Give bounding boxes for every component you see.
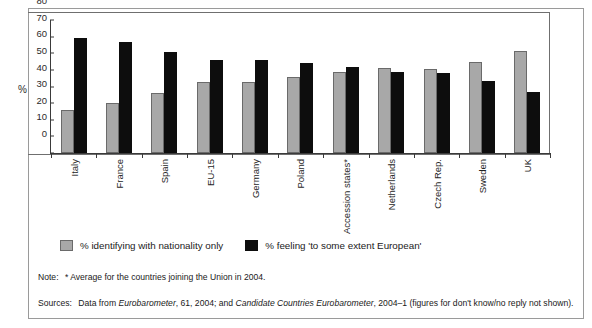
bar-european — [119, 42, 132, 153]
y-tick-40: 40 — [36, 61, 47, 72]
x-category: France — [96, 157, 141, 219]
x-category-label: EU-15 — [204, 159, 215, 186]
bar-nationality — [378, 68, 391, 153]
bar-group — [51, 20, 96, 153]
bar-european — [210, 60, 223, 153]
y-tick-30: 30 — [36, 78, 47, 89]
x-category-label: Germany — [250, 159, 261, 198]
bar-group — [232, 20, 277, 153]
bar-group — [505, 20, 550, 153]
legend-swatch-grey — [60, 240, 73, 251]
x-tick-mark — [550, 153, 551, 158]
bar-group — [187, 20, 232, 153]
legend-item-european: % feeling 'to some extent European' — [245, 240, 421, 251]
x-category-label: Accession states* — [340, 159, 351, 234]
bar-european — [346, 67, 359, 153]
bar-european — [482, 81, 495, 153]
bar-group — [459, 20, 504, 153]
bar-european — [527, 92, 540, 153]
y-tick-50: 50 — [36, 44, 47, 55]
x-axis-category-labels: ItalyFranceSpainEU-15GermanyPolandAccess… — [51, 157, 550, 219]
note-label: Note: — [38, 272, 59, 282]
sources-mid: , 61, 2004; and — [176, 298, 233, 308]
bar-european — [74, 38, 87, 153]
bar-nationality — [333, 72, 346, 153]
legend-item-nationality: % identifying with nationality only — [60, 240, 223, 251]
y-axis-ticks: 01020304050607080 — [0, 0, 47, 154]
x-category-label: Sweden — [476, 159, 487, 193]
x-category: Germany — [232, 157, 277, 219]
bar-european — [437, 73, 450, 153]
x-category-label: Spain — [159, 159, 170, 183]
bar-nationality — [514, 51, 527, 153]
chart-page: % 01020304050607080 ItalyFranceSpainEU-1… — [0, 0, 592, 328]
bar-european — [391, 72, 404, 153]
y-tick-20: 20 — [36, 94, 47, 105]
y-tick-70: 70 — [36, 11, 47, 22]
bar-nationality — [424, 69, 437, 153]
bar-group — [96, 20, 141, 153]
legend-label-nationality: % identifying with nationality only — [80, 240, 223, 251]
x-category: Czech Rep. — [414, 157, 459, 219]
x-category: Poland — [278, 157, 323, 219]
sources-italic-two: Candidate Countries Eurobarometer — [236, 298, 374, 308]
bar-group — [369, 20, 414, 153]
x-category-label: UK — [522, 159, 533, 172]
bar-nationality — [106, 103, 119, 153]
x-category: Netherlands — [369, 157, 414, 219]
x-category: Spain — [142, 157, 187, 219]
y-tick-0: 0 — [42, 128, 47, 139]
sources-pre: Data from — [78, 298, 116, 308]
sources-post: , 2004–1 (figures for don't know/no repl… — [374, 298, 574, 308]
x-category: UK — [505, 157, 550, 219]
x-category-label: Poland — [295, 159, 306, 189]
x-category-label: France — [114, 159, 125, 189]
legend-label-european: % feeling 'to some extent European' — [265, 240, 421, 251]
bar-european — [164, 52, 177, 153]
bar-group — [414, 20, 459, 153]
x-category-label: Netherlands — [386, 159, 397, 210]
bar-nationality — [242, 82, 255, 153]
sources-italic-one: Eurobarometer — [118, 298, 175, 308]
bar-nationality — [287, 77, 300, 153]
y-tick-10: 10 — [36, 111, 47, 122]
x-category-label: Italy — [68, 159, 79, 176]
bar-group — [142, 20, 187, 153]
bar-group — [323, 20, 368, 153]
bar-nationality — [469, 62, 482, 153]
y-tick-60: 60 — [36, 28, 47, 39]
x-category-label: Czech Rep. — [431, 159, 442, 209]
bar-group — [278, 20, 323, 153]
bar-nationality — [197, 82, 210, 153]
bar-nationality — [61, 110, 74, 153]
sources-label: Sources: — [38, 298, 72, 308]
bar-nationality — [151, 93, 164, 153]
bar-european — [255, 60, 268, 153]
bar-groups — [51, 20, 550, 153]
x-category: Accession states* — [323, 157, 368, 219]
y-tick-80: 80 — [36, 0, 47, 6]
chart-legend: % identifying with nationality only % fe… — [60, 240, 421, 251]
x-category: Italy — [51, 157, 96, 219]
figure-note: Note: * Average for the countries joinin… — [38, 272, 265, 282]
note-text: * Average for the countries joining the … — [65, 272, 266, 282]
bar-european — [300, 63, 313, 153]
legend-swatch-black — [245, 240, 258, 251]
x-category: Sweden — [459, 157, 504, 219]
figure-sources: Sources: Data from Eurobarometer, 61, 20… — [38, 298, 573, 308]
x-category: EU-15 — [187, 157, 232, 219]
